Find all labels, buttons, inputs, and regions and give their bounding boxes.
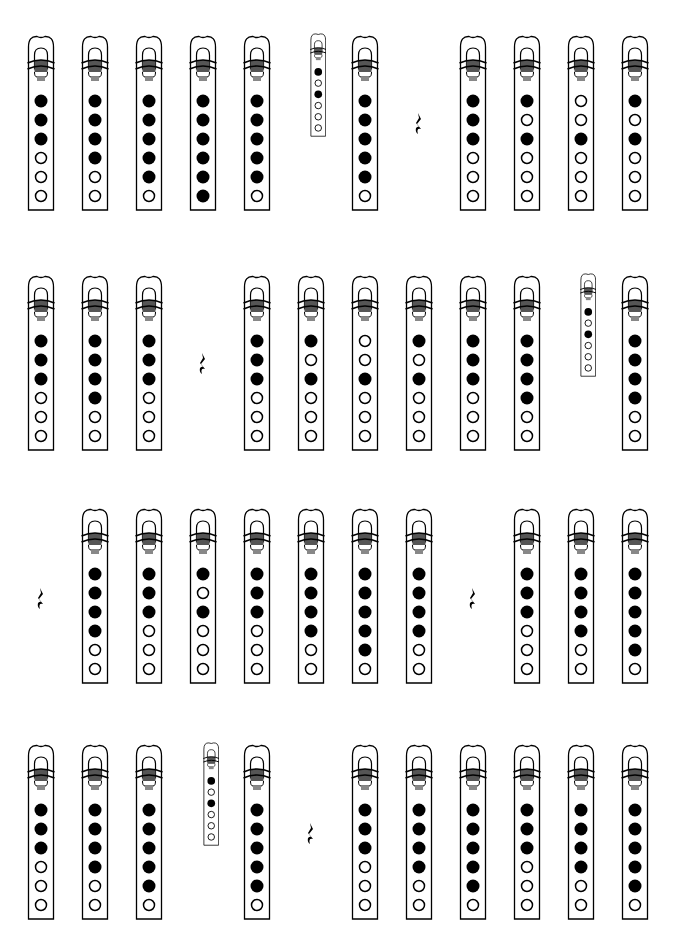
open-hole-icon (198, 588, 209, 599)
open-hole-icon (315, 125, 321, 131)
whistle-fingering (351, 35, 379, 211)
open-hole-icon (306, 645, 317, 656)
closed-hole-icon (89, 606, 102, 619)
closed-hole-icon (467, 823, 480, 836)
closed-hole-icon (305, 373, 318, 386)
open-hole-icon (90, 412, 101, 423)
whistle-fingering (351, 508, 379, 684)
closed-hole-icon (305, 587, 318, 600)
closed-hole-icon (521, 587, 534, 600)
open-hole-icon (414, 664, 425, 675)
open-hole-icon (90, 900, 101, 911)
whistle-fingering (405, 744, 433, 920)
closed-hole-icon (251, 133, 264, 146)
whistle-fingering (135, 275, 163, 451)
open-hole-icon (144, 900, 155, 911)
closed-hole-icon (521, 354, 534, 367)
quarter-rest-icon (466, 587, 480, 613)
open-hole-icon (144, 191, 155, 202)
closed-hole-icon (89, 133, 102, 146)
open-hole-icon (522, 153, 533, 164)
closed-hole-icon (89, 823, 102, 836)
whistle-fingering (243, 275, 271, 451)
whistle-fingering (297, 508, 325, 684)
closed-hole-icon (413, 625, 426, 638)
closed-hole-icon (629, 587, 642, 600)
whistle-fingering (567, 508, 595, 684)
open-hole-icon (306, 393, 317, 404)
closed-hole-icon (575, 568, 588, 581)
open-hole-icon (208, 789, 214, 795)
open-hole-icon (576, 645, 587, 656)
open-hole-icon (585, 342, 591, 348)
open-hole-icon (252, 431, 263, 442)
whistle-fingering (351, 744, 379, 920)
open-hole-icon (522, 191, 533, 202)
open-hole-icon (90, 431, 101, 442)
whistle-fingering (459, 275, 487, 451)
open-hole-icon (576, 115, 587, 126)
whistle-fingering (621, 744, 649, 920)
closed-hole-icon (575, 823, 588, 836)
closed-hole-icon (575, 625, 588, 638)
open-hole-icon (252, 412, 263, 423)
open-hole-icon (36, 191, 47, 202)
open-hole-icon (630, 412, 641, 423)
closed-hole-icon (35, 354, 48, 367)
closed-hole-icon (359, 133, 372, 146)
closed-hole-icon (467, 354, 480, 367)
open-hole-icon (36, 393, 47, 404)
closed-hole-icon (143, 95, 156, 108)
quarter-rest-icon (412, 112, 426, 138)
closed-hole-icon (143, 335, 156, 348)
closed-hole-icon (89, 842, 102, 855)
closed-hole-icon (143, 133, 156, 146)
open-hole-icon (630, 191, 641, 202)
whistle-fingering (513, 508, 541, 684)
open-hole-icon (576, 900, 587, 911)
closed-hole-icon (35, 335, 48, 348)
open-hole-icon (144, 626, 155, 637)
closed-hole-icon (143, 114, 156, 127)
open-hole-icon (208, 811, 214, 817)
open-hole-icon (522, 862, 533, 873)
open-hole-icon (36, 153, 47, 164)
closed-hole-icon (359, 625, 372, 638)
closed-hole-icon (251, 152, 264, 165)
closed-hole-icon (89, 804, 102, 817)
closed-hole-icon (413, 842, 426, 855)
closed-hole-icon (629, 373, 642, 386)
open-hole-icon (630, 900, 641, 911)
closed-hole-icon (197, 171, 210, 184)
closed-hole-icon (521, 392, 534, 405)
closed-hole-icon (467, 804, 480, 817)
whistle-fingering (459, 744, 487, 920)
closed-hole-icon (629, 95, 642, 108)
closed-hole-icon (629, 354, 642, 367)
open-hole-icon (630, 115, 641, 126)
whistle-fingering (405, 275, 433, 451)
whistle-fingering (243, 35, 271, 211)
open-hole-icon (144, 645, 155, 656)
closed-hole-icon (629, 880, 642, 893)
closed-hole-icon (584, 308, 592, 316)
whistle-fingering (297, 275, 325, 451)
closed-hole-icon (359, 568, 372, 581)
closed-hole-icon (89, 152, 102, 165)
open-hole-icon (144, 664, 155, 675)
closed-hole-icon (575, 861, 588, 874)
open-hole-icon (252, 645, 263, 656)
closed-hole-icon (467, 95, 480, 108)
open-hole-icon (468, 191, 479, 202)
open-hole-icon (90, 664, 101, 675)
whistle-fingering (81, 744, 109, 920)
open-hole-icon (90, 172, 101, 183)
closed-hole-icon (35, 373, 48, 386)
open-hole-icon (360, 881, 371, 892)
open-hole-icon (36, 881, 47, 892)
open-hole-icon (360, 191, 371, 202)
closed-hole-icon (251, 114, 264, 127)
closed-hole-icon (629, 568, 642, 581)
open-hole-icon (576, 96, 587, 107)
closed-hole-icon (251, 880, 264, 893)
